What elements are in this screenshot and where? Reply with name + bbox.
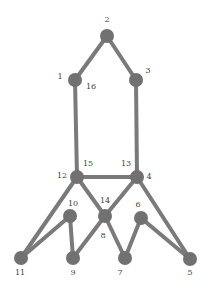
- edge-2-1: [75, 36, 107, 80]
- node-label: 2: [104, 15, 109, 24]
- node-label: 14: [100, 196, 110, 205]
- node-label: 4: [146, 172, 151, 181]
- node-label: 5: [187, 268, 192, 277]
- node-label: 1: [57, 72, 62, 81]
- node-label: 10: [68, 199, 78, 208]
- node-11: [14, 251, 28, 265]
- node-label: 12: [57, 171, 67, 180]
- node-5: [183, 252, 197, 266]
- node-6: [134, 211, 148, 225]
- node-label: 11: [15, 268, 25, 277]
- edges-layer: [21, 36, 190, 259]
- node-label: 9: [70, 268, 75, 277]
- node-9: [66, 251, 80, 265]
- edge-2-3: [107, 36, 136, 80]
- node-3: [129, 73, 143, 87]
- node-7: [118, 251, 132, 265]
- node-1: [68, 73, 82, 87]
- node-4: [130, 170, 144, 184]
- node-10: [63, 209, 77, 223]
- edge-1-12: [75, 80, 77, 177]
- node-label: 3: [145, 66, 150, 75]
- node-label: 6: [135, 200, 140, 209]
- node-14: [98, 209, 112, 223]
- node-label: 13: [121, 159, 131, 168]
- node-label: 8: [100, 231, 105, 240]
- node-label: 15: [83, 159, 93, 168]
- node-12: [70, 170, 84, 184]
- graph-diagram: 21163151213414106811975: [0, 0, 211, 295]
- node-2: [100, 29, 114, 43]
- node-label: 7: [117, 268, 122, 277]
- node-label: 16: [86, 82, 96, 91]
- edge-3-4: [136, 80, 137, 177]
